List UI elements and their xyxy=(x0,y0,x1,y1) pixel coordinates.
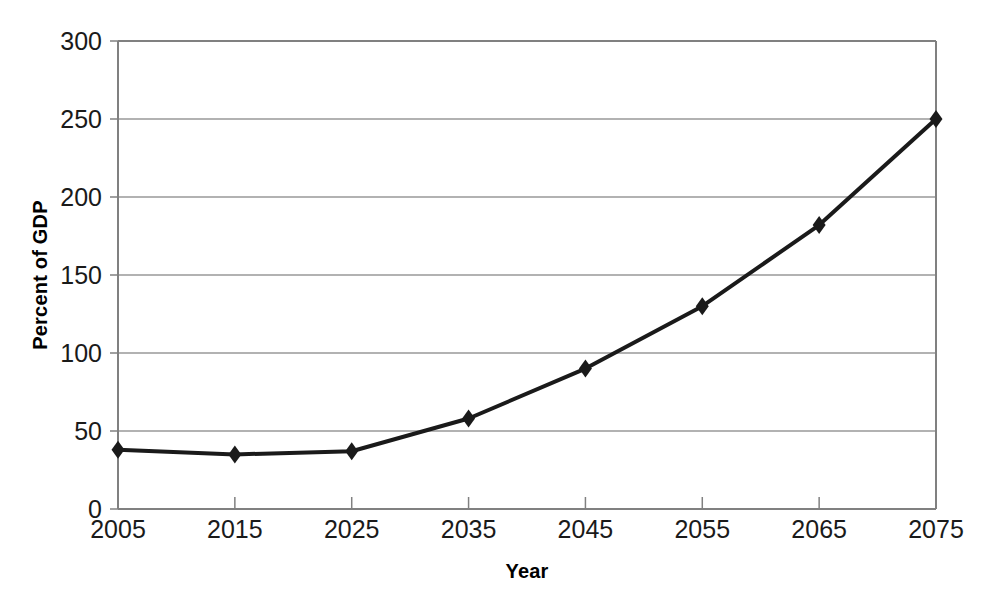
x-tick-label: 2015 xyxy=(207,515,263,543)
x-tick-label: 2065 xyxy=(791,515,847,543)
x-tick-label: 2055 xyxy=(674,515,730,543)
y-axis-title: Percent of GDP xyxy=(29,200,51,350)
y-tick-label: 300 xyxy=(60,27,102,55)
x-tick-label: 2035 xyxy=(441,515,497,543)
y-tick-label: 150 xyxy=(60,261,102,289)
x-axis-title: Year xyxy=(505,560,548,582)
x-tick-label: 2075 xyxy=(908,515,964,543)
y-tick-label: 100 xyxy=(60,339,102,367)
y-tick-label: 250 xyxy=(60,105,102,133)
y-tick-label: 200 xyxy=(60,183,102,211)
y-tick-label: 50 xyxy=(74,417,102,445)
x-tick-label: 2025 xyxy=(324,515,380,543)
x-tick-label: 2005 xyxy=(90,515,146,543)
chart-background xyxy=(0,0,1003,602)
chart-container: 050100150200250300 200520152025203520452… xyxy=(0,0,1003,602)
x-tick-label: 2045 xyxy=(558,515,614,543)
line-chart: 050100150200250300 200520152025203520452… xyxy=(0,0,1003,602)
